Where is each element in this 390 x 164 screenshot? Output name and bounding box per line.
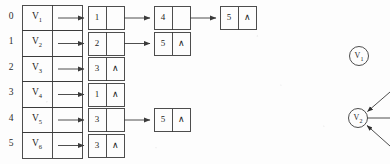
list-node-value: 4 bbox=[154, 12, 172, 22]
null-pointer-symbol: ∧ bbox=[106, 89, 124, 99]
array-cell-vertex-4: V5 bbox=[22, 113, 52, 125]
figure-canvas: 0 1 2 3 4 5 V1 V2 V3 V4 V5 V6 1 4 5 ∧ 2 … bbox=[0, 0, 390, 164]
graph-node-label-sub: 1 bbox=[360, 56, 363, 62]
row-index-3: 3 bbox=[4, 87, 18, 97]
vertex-label-sub: 6 bbox=[39, 143, 42, 150]
row-index-2: 2 bbox=[4, 62, 18, 72]
graph-node-v1: V1 bbox=[350, 51, 368, 62]
vertex-label-text: V bbox=[32, 87, 39, 97]
graph-node-v2: V2 bbox=[349, 113, 367, 124]
row-index-0: 0 bbox=[4, 11, 18, 21]
vertex-label-sub: 2 bbox=[39, 41, 42, 48]
vertex-label-sub: 5 bbox=[39, 118, 42, 125]
vertex-label-sub: 4 bbox=[39, 92, 42, 99]
vertex-label-text: V bbox=[32, 62, 39, 72]
list-node-value: 5 bbox=[154, 38, 172, 48]
list-node-value: 1 bbox=[88, 12, 106, 22]
array-cell-vertex-0: V1 bbox=[22, 11, 52, 23]
null-pointer-symbol: ∧ bbox=[172, 38, 190, 48]
row-index-5: 5 bbox=[4, 138, 18, 148]
vertex-label-text: V bbox=[32, 138, 39, 148]
array-cell-vertex-5: V6 bbox=[22, 138, 52, 150]
null-pointer-symbol: ∧ bbox=[172, 114, 190, 124]
null-pointer-symbol: ∧ bbox=[106, 140, 124, 150]
vertex-label-text: V bbox=[32, 36, 39, 46]
array-cell-vertex-3: V4 bbox=[22, 87, 52, 99]
vertex-label-sub: 3 bbox=[39, 67, 42, 74]
row-index-1: 1 bbox=[4, 36, 18, 46]
vertex-label-sub: 1 bbox=[39, 16, 42, 23]
list-node-value: 3 bbox=[88, 140, 106, 150]
list-node-value: 5 bbox=[220, 12, 238, 22]
vertex-label-text: V bbox=[32, 11, 39, 21]
graph-node-label-sub: 2 bbox=[359, 118, 362, 124]
array-cell-vertex-2: V3 bbox=[22, 62, 52, 74]
list-node-value: 3 bbox=[88, 63, 106, 73]
array-cell-vertex-1: V2 bbox=[22, 36, 52, 48]
list-node-value: 5 bbox=[154, 114, 172, 124]
null-pointer-symbol: ∧ bbox=[106, 63, 124, 73]
list-node-value: 3 bbox=[88, 114, 106, 124]
diagram-vector-layer bbox=[0, 0, 390, 164]
vertex-label-text: V bbox=[32, 113, 39, 123]
list-node-value: 2 bbox=[88, 38, 106, 48]
null-pointer-symbol: ∧ bbox=[238, 12, 256, 22]
list-node-value: 1 bbox=[88, 89, 106, 99]
row-index-4: 4 bbox=[4, 113, 18, 123]
